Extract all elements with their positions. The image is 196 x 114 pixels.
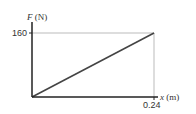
force-displacement-chart: F (N) 160 0.24 x (m) [0, 0, 196, 114]
y-tick-label: 160 [12, 28, 27, 38]
y-axis-label: F (N) [27, 12, 47, 22]
x-tick-label: 0.24 [143, 100, 161, 110]
data-line [32, 33, 154, 97]
y-axis-unit: (N) [33, 12, 48, 22]
x-axis-label: x (m) [160, 92, 179, 102]
x-axis-unit: (m) [164, 92, 179, 102]
